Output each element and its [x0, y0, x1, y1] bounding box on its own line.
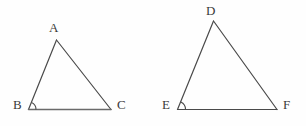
- angle-arc-e: [181, 102, 186, 109]
- segment-de: [178, 21, 214, 110]
- vertex-label-d: D: [206, 4, 215, 17]
- vertex-label-b: B: [13, 98, 22, 111]
- segment-ac: [57, 40, 112, 110]
- segment-ab: [29, 40, 57, 110]
- angle-arc-b: [32, 103, 37, 110]
- geometry-figure: A B C D E F: [0, 0, 306, 126]
- triangle-def: [178, 21, 278, 110]
- vertex-label-e: E: [162, 98, 170, 111]
- figure-canvas: [0, 0, 306, 126]
- vertex-label-f: F: [283, 98, 290, 111]
- segment-df: [214, 21, 278, 110]
- vertex-label-c: C: [117, 98, 126, 111]
- vertex-label-a: A: [49, 21, 58, 34]
- triangle-abc: [29, 40, 112, 110]
